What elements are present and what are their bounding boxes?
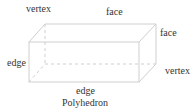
hidden-slant-edge [29,64,45,82]
edge-label-left: edge [7,58,26,68]
top-left-slant-edge [29,24,45,42]
polyhedron-diagram: vertex face face edge vertex edge Polyhe… [0,0,194,112]
face-label-right: face [160,28,177,38]
bottom-right-slant-edge [139,64,156,82]
vertex-label-top: vertex [26,4,51,14]
rectangular-prism-drawing [0,0,194,112]
vertex-label-right: vertex [165,66,190,76]
face-label-top: face [106,7,123,17]
diagram-title: Polyhedron [62,98,108,108]
top-right-slant-edge [139,24,156,42]
edge-label-bottom: edge [76,86,95,96]
